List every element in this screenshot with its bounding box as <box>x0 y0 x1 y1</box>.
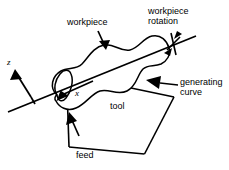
figure-turning-diagram: workpiece workpiece rotation generating … <box>0 0 229 170</box>
generating-curve-arrowhead <box>146 76 161 89</box>
generating-curve-leader-line <box>160 83 178 85</box>
axis-z-arrowhead <box>10 69 22 80</box>
axis-z-arrow <box>10 69 35 104</box>
label-generating-curve-line2: curve <box>180 88 202 98</box>
tool-right-edge <box>145 97 175 154</box>
rotation-arrowhead-upper <box>174 31 182 39</box>
workpiece-outline <box>52 36 169 110</box>
label-axis-x: x <box>75 88 79 98</box>
label-tool: tool <box>110 102 125 112</box>
label-axis-z: z <box>7 57 11 67</box>
generating-curve-leader <box>146 76 178 89</box>
label-workpiece: workpiece <box>67 18 108 28</box>
label-workpiece-rotation-line2: rotation <box>148 17 178 27</box>
label-feed: feed <box>76 151 94 161</box>
